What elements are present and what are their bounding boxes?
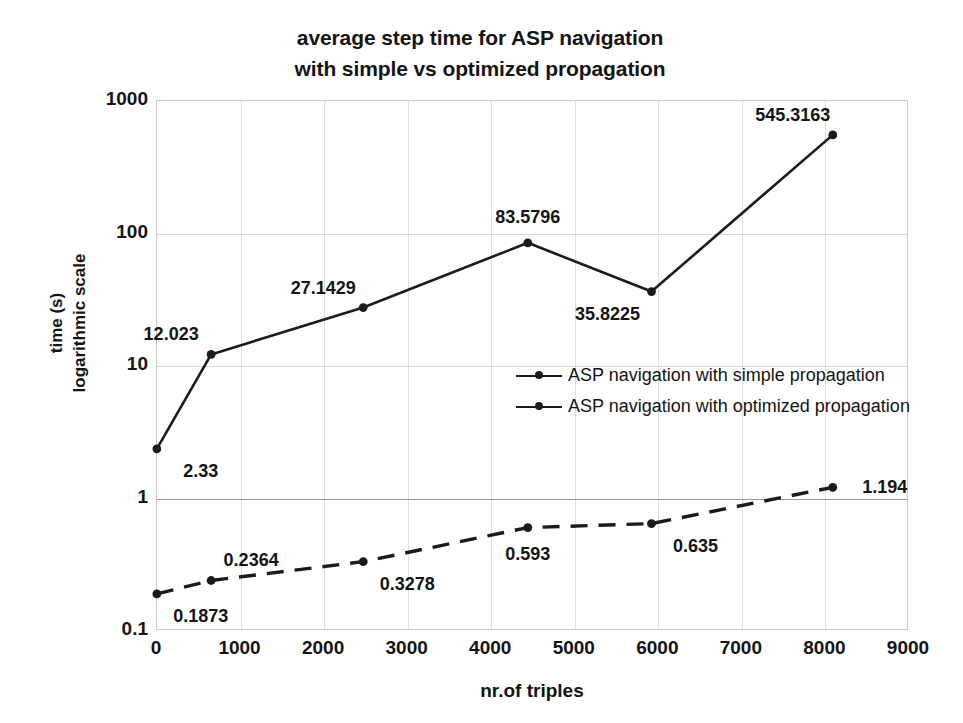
- data-point-label: 35.8225: [575, 303, 640, 324]
- data-point-marker[interactable]: [828, 130, 837, 139]
- data-point-label: 0.635: [673, 535, 718, 556]
- x-axis-tick-label: 2000: [278, 637, 368, 659]
- chart-container: average step time for ASP navigation wit…: [0, 0, 963, 723]
- x-axis-tick-label: 8000: [779, 637, 869, 659]
- data-point-marker[interactable]: [207, 350, 216, 359]
- legend-label-simple: ASP navigation with simple propagation: [568, 365, 885, 386]
- data-point-label: 27.1429: [291, 277, 356, 298]
- legend-item-optimized[interactable]: ASP navigation with optimized propagatio…: [516, 391, 910, 422]
- legend: ASP navigation with simple propagation A…: [512, 358, 914, 424]
- data-point-label: 0.1873: [173, 605, 228, 626]
- data-point-marker[interactable]: [359, 303, 368, 312]
- data-point-marker[interactable]: [828, 483, 837, 492]
- data-point-marker[interactable]: [359, 557, 368, 566]
- y-axis-tick-label: 1000: [62, 88, 148, 110]
- x-axis-tick-label: 5000: [529, 637, 619, 659]
- data-point-label: 0.593: [505, 543, 550, 564]
- y-axis-tick-label: 1: [62, 486, 148, 508]
- data-point-marker[interactable]: [647, 287, 656, 296]
- chart-title-line-2: with simple vs optimized propagation: [150, 53, 810, 84]
- data-point-label: 2.33: [183, 460, 218, 481]
- data-point-label: 545.3163: [755, 104, 830, 125]
- x-axis-tick-label: 9000: [863, 637, 953, 659]
- x-axis-tick-label: 4000: [445, 637, 535, 659]
- legend-dashed-line-marker-icon: [516, 400, 562, 414]
- data-point-marker[interactable]: [152, 444, 161, 453]
- series-line-optimized: [157, 487, 833, 594]
- chart-title-line-1: average step time for ASP navigation: [150, 22, 810, 53]
- data-point-marker[interactable]: [207, 576, 216, 585]
- data-point-marker[interactable]: [523, 523, 532, 532]
- chart-title: average step time for ASP navigation wit…: [150, 22, 810, 84]
- legend-item-simple[interactable]: ASP navigation with simple propagation: [516, 360, 910, 391]
- data-point-label: 12.023: [144, 324, 199, 345]
- data-point-marker[interactable]: [152, 589, 161, 598]
- x-axis-tick-label: 1000: [195, 637, 285, 659]
- legend-line-marker-icon: [516, 369, 562, 383]
- data-point-label: 1.194: [862, 477, 907, 498]
- x-axis-tick-label: 0: [111, 637, 201, 659]
- y-axis-tick-labels: 0.11101001000: [52, 100, 148, 630]
- data-point-label: 0.3278: [380, 573, 435, 594]
- data-point-label: 0.2364: [224, 550, 279, 571]
- x-axis-tick-labels: 0100020003000400050006000700080009000: [156, 637, 908, 665]
- data-point-label: 83.5796: [495, 206, 560, 227]
- x-axis-tick-label: 6000: [612, 637, 702, 659]
- y-axis-tick-label: 10: [62, 353, 148, 375]
- legend-label-optimized: ASP navigation with optimized propagatio…: [568, 396, 910, 417]
- x-axis-tick-label: 3000: [362, 637, 452, 659]
- data-point-marker[interactable]: [523, 238, 532, 247]
- x-axis-tick-label: 7000: [696, 637, 786, 659]
- data-point-marker[interactable]: [647, 519, 656, 528]
- x-axis-title: nr.of triples: [156, 680, 908, 702]
- y-axis-tick-label: 100: [62, 221, 148, 243]
